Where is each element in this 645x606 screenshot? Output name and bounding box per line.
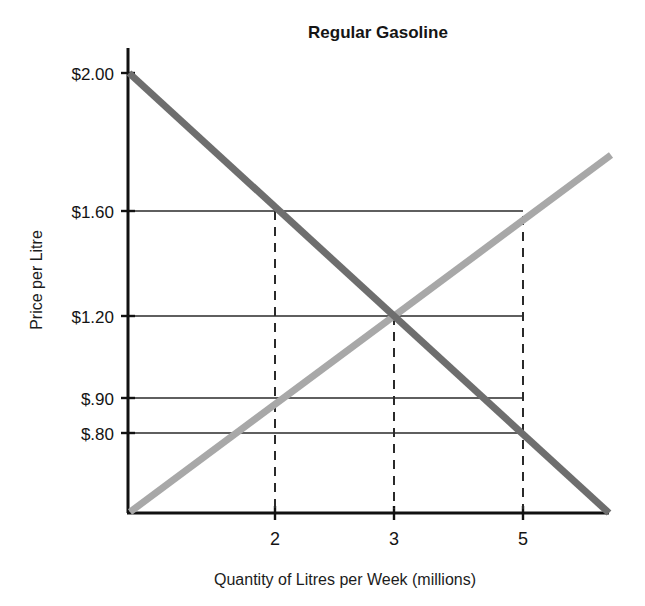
- y-tick-label-0-90: $.90: [81, 390, 114, 409]
- y-tick-label-2-00: $2.00: [71, 65, 114, 84]
- chart-background: [0, 0, 645, 606]
- y-axis-title: Price per Litre: [28, 230, 45, 330]
- chart-container: Regular Gasoline $2.00 $1.60 $1.20 $: [0, 0, 645, 606]
- y-tick-label-0-80: $.80: [81, 425, 114, 444]
- y-tick-label-1-60: $1.60: [71, 203, 114, 222]
- x-tick-label-3: 3: [389, 529, 399, 549]
- regular-gasoline-supply-demand-chart: Regular Gasoline $2.00 $1.60 $1.20 $: [0, 0, 645, 606]
- chart-title: Regular Gasoline: [308, 23, 448, 42]
- x-tick-label-2: 2: [270, 529, 280, 549]
- x-axis-title: Quantity of Litres per Week (millions): [214, 571, 476, 588]
- y-tick-label-1-20: $1.20: [71, 308, 114, 327]
- x-tick-label-5: 5: [518, 529, 528, 549]
